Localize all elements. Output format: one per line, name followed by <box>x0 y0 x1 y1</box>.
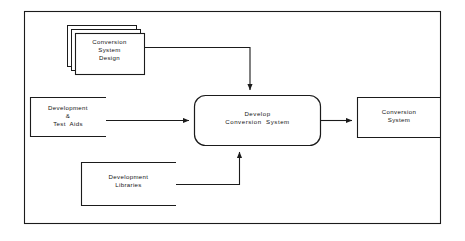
node-conversion-system-design[interactable] <box>68 26 145 75</box>
diagram-canvas <box>0 0 465 241</box>
store-outline-development-libraries <box>82 163 177 206</box>
dfd-diagram: Conversion System Design Development & T… <box>0 0 465 241</box>
store-outline-conversion-system <box>358 98 441 138</box>
node-conversion-system[interactable] <box>358 98 441 138</box>
node-develop-conversion-system[interactable] <box>195 96 321 146</box>
node-development-and-test-aids[interactable] <box>31 98 107 137</box>
flow-design-to-process <box>145 48 251 91</box>
stack-layer-front <box>76 34 145 75</box>
flow-libraries-to-process <box>176 152 240 185</box>
process-outline-develop-conversion-system <box>195 96 321 146</box>
node-development-libraries[interactable] <box>82 163 177 206</box>
store-outline-development-test-aids <box>31 98 107 137</box>
